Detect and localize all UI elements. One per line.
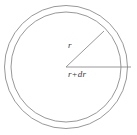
annulus-figure-canvas: [0, 0, 137, 135]
annulus-diagram: r r+dr: [0, 0, 137, 135]
outer-radius-label: r+dr: [68, 70, 86, 79]
inner-radius-label: r: [68, 41, 72, 50]
